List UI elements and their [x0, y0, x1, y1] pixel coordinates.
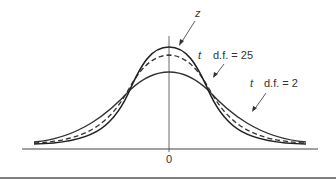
distribution-diagram: z t d.f. = 25 t d.f. = 2 0 — [0, 0, 336, 180]
curve-z — [34, 47, 306, 144]
label-t2-df: d.f. = 2 — [264, 77, 298, 89]
label-t25-df: d.f. = 25 — [213, 49, 253, 61]
label-z: z — [194, 7, 201, 19]
x-axis-zero-label: 0 — [166, 153, 172, 165]
label-t2-var: t — [250, 77, 254, 89]
curve-t-df25 — [34, 55, 306, 143]
label-t25-var: t — [198, 49, 202, 61]
arrow-z — [181, 21, 195, 43]
